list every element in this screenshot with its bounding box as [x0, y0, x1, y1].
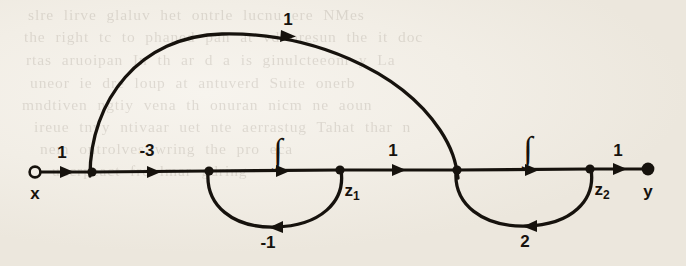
integral-icon-n3-to-z2: ∫	[521, 130, 535, 170]
edge-label-n1-to-n3-arc: 1	[283, 10, 292, 29]
edge-label-z1-to-n2-loop: -1	[260, 233, 275, 252]
node-y[interactable]	[642, 163, 655, 176]
arrowhead-z1-to-n3	[392, 164, 406, 176]
edge-label-z1-to-n3: 1	[388, 141, 397, 160]
edge-n3-to-z2	[457, 169, 590, 170]
node-label-z1: z1	[344, 181, 360, 203]
integrator-label-group: ∫ ∫	[271, 130, 535, 172]
arrowhead-z2-to-n3-loop	[523, 220, 537, 232]
node-n2[interactable]	[204, 166, 213, 175]
node-label-z2-subscript: 2	[603, 188, 610, 202]
arrowhead-n1-to-n2	[147, 166, 161, 178]
signal-flow-graph: 1 -3 1 1 1 -1 2 ∫ ∫ x y z1 z2	[0, 0, 686, 266]
node-label-y: y	[643, 182, 653, 201]
edge-z1-to-n2-loop	[208, 170, 342, 227]
node-label-z2-base: z	[594, 180, 603, 199]
edge-label-z2-to-y: 1	[613, 141, 622, 160]
node-n1[interactable]	[87, 167, 96, 176]
edge-label-n1-to-n2: -3	[139, 141, 154, 160]
edge-label-z2-to-n3-loop: 2	[520, 232, 529, 251]
scanned-figure-page: slre lirve glaluv het ontrle lucnu ere N…	[0, 0, 686, 266]
node-label-x: x	[30, 184, 40, 203]
node-x[interactable]	[30, 167, 41, 178]
edge-label-group: 1 -3 1 1 1 -1 2	[57, 10, 622, 252]
node-n3[interactable]	[452, 165, 461, 174]
edge-group-curved	[90, 34, 592, 227]
node-label-z1-subscript: 1	[353, 189, 360, 203]
edge-n2-to-z1	[209, 170, 340, 171]
integral-icon-n2-to-z1: ∫	[271, 132, 285, 172]
edge-z2-to-n3-loop	[456, 169, 592, 226]
node-label-z2: z2	[594, 180, 610, 202]
node-z2[interactable]	[585, 164, 594, 173]
edge-label-x-to-n1: 1	[57, 143, 66, 162]
arrowhead-z2-to-y	[613, 163, 627, 175]
arrowhead-x-to-n1	[60, 166, 74, 178]
node-label-z1-base: z	[344, 181, 353, 200]
node-z1[interactable]	[335, 165, 344, 174]
arrowhead-z1-to-n2-loop	[269, 221, 283, 233]
